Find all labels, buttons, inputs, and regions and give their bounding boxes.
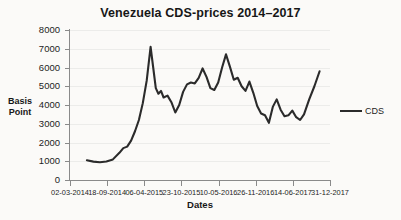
y-axis-tick-label: 8000 xyxy=(14,24,60,35)
plot-area xyxy=(70,30,330,180)
legend-swatch-cds xyxy=(340,110,362,113)
y-axis-tick-label: 3000 xyxy=(14,118,60,129)
y-axis-tick xyxy=(65,105,70,106)
series-cds-line xyxy=(70,30,330,180)
x-axis-tick xyxy=(219,181,220,186)
y-axis-tick xyxy=(65,161,70,162)
y-axis-tick xyxy=(65,68,70,69)
x-axis-tick xyxy=(181,181,182,186)
y-axis-tick xyxy=(65,86,70,87)
legend: CDS xyxy=(340,106,384,116)
x-axis-tick xyxy=(330,181,331,186)
y-axis-tick-label: 5000 xyxy=(14,80,60,91)
x-axis-tick xyxy=(256,181,257,186)
x-axis-tick xyxy=(144,181,145,186)
x-axis-label: Dates xyxy=(70,199,330,210)
y-axis-tick-label: 0 xyxy=(14,174,60,185)
x-axis-tick-label: 31-12-2017 xyxy=(302,188,358,197)
x-axis-line xyxy=(69,180,331,181)
y-axis-tick-label: 4000 xyxy=(14,99,60,110)
y-axis-tick-label: 7000 xyxy=(14,43,60,54)
chart-title: Venezuela CDS-prices 2014–2017 xyxy=(0,6,401,20)
y-axis-tick-label: 1000 xyxy=(14,155,60,166)
y-axis-tick xyxy=(65,49,70,50)
chart-figure: Venezuela CDS-prices 2014–2017 Basis Poi… xyxy=(0,0,401,220)
x-axis-tick xyxy=(107,181,108,186)
y-axis-tick-label: 2000 xyxy=(14,137,60,148)
legend-label-cds: CDS xyxy=(365,106,384,116)
y-axis-tick xyxy=(65,124,70,125)
x-axis-tick xyxy=(70,181,71,186)
x-axis-tick xyxy=(293,181,294,186)
y-axis-tick xyxy=(65,143,70,144)
y-axis-tick-label: 6000 xyxy=(14,62,60,73)
y-axis-tick xyxy=(65,30,70,31)
series-cds-path xyxy=(87,47,320,162)
